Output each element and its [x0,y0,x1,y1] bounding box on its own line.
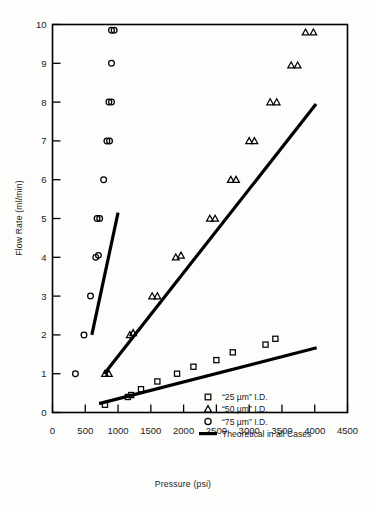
theoretical-lines [92,104,317,404]
square-marker [155,379,160,384]
square-marker [263,342,268,347]
triangle-marker [233,176,240,182]
y-tick-label: 1 [41,368,46,379]
triangle-marker [204,406,211,413]
circle-marker [88,293,94,299]
triangle-marker [178,252,185,258]
circle-marker [101,177,107,183]
square-marker [214,358,219,363]
triangle-marker [294,62,301,68]
x-tick-label: 500 [77,425,93,436]
square-marker [191,364,196,369]
triangle-marker [251,138,258,144]
square-marker [273,336,278,341]
x-tick-label: 1500 [140,425,161,436]
y-tick-label: 2 [41,329,46,340]
circle-marker [81,332,87,338]
triangle-marker [273,99,280,105]
square-marker [230,350,235,355]
theoretical-line [104,104,316,374]
x-tick-label: 2000 [173,425,194,436]
legend-label: Theoretical in all Cases [222,429,311,439]
triangle-marker [302,29,309,35]
y-tick-label: 10 [36,19,47,30]
y-tick-label: 0 [41,407,46,418]
y-axis-title: Flow Rate (ml/min) [14,180,24,256]
legend-label: “75 µm” I.D. [222,417,268,427]
y-tick-label: 3 [41,291,46,302]
y-tick-label: 8 [41,97,46,108]
x-tick-label: 1000 [107,425,128,436]
legend-label: “25 µm” I.D. [222,392,268,402]
y-tick-label: 9 [41,58,46,69]
y-tick-label: 4 [41,252,46,263]
triangle-marker [154,293,161,299]
x-tick-label: 4500 [337,425,358,436]
theoretical-line [92,213,118,335]
theoretical-line [99,348,317,404]
y-axis: 012345678910 [36,19,61,418]
flow-rate-vs-pressure-chart: 012345678910 050010001500200025003000350… [0,0,369,512]
x-tick-label: 0 [50,425,55,436]
triangle-marker [212,215,219,221]
circle-marker [109,60,115,66]
y-tick-label: 5 [41,213,46,224]
triangle-marker [267,99,274,105]
series-triangle [102,29,317,376]
triangle-marker [310,29,317,35]
figure-container: 012345678910 050010001500200025003000350… [0,0,369,512]
square-marker [205,394,211,400]
x-axis-title: Pressure (psi) [155,479,211,489]
y-tick-label: 7 [41,135,46,146]
x-axis: 050010001500200025003000350040004500 [50,405,358,436]
data-series [73,27,317,407]
y-tick-label: 6 [41,174,46,185]
square-marker [174,371,179,376]
triangle-marker [288,62,295,68]
legend-label: “50 µm” I.D. [222,404,268,414]
circle-marker [73,371,79,377]
